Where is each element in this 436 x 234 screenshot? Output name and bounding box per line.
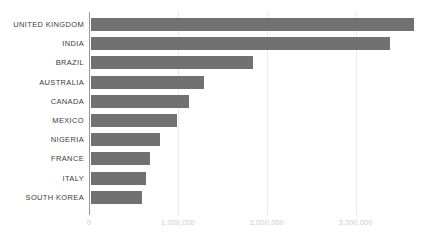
category-label: NIGERIA xyxy=(0,133,84,146)
category-label: SOUTH KOREA xyxy=(0,191,84,204)
category-label: INDIA xyxy=(0,37,84,50)
bar xyxy=(91,133,160,146)
bar xyxy=(91,191,142,204)
x-tick-label: 2,000,000 xyxy=(250,217,284,229)
bar xyxy=(91,56,253,69)
category-label: ITALY xyxy=(0,172,84,185)
bar xyxy=(91,172,146,185)
bar-series xyxy=(89,12,436,215)
bar xyxy=(91,76,204,89)
bar xyxy=(91,95,189,108)
bar-chart: UNITED KINGDOMINDIABRAZILAUSTRALIACANADA… xyxy=(0,0,436,234)
category-label: BRAZIL xyxy=(0,56,84,69)
plot-area xyxy=(89,12,436,215)
bar xyxy=(91,37,390,50)
category-label: AUSTRALIA xyxy=(0,76,84,89)
x-tick-label: 0 xyxy=(87,217,91,229)
bar xyxy=(91,152,150,165)
bar xyxy=(91,18,414,31)
category-label: FRANCE xyxy=(0,152,84,165)
category-label: MEXICO xyxy=(0,114,84,127)
x-tick-label: 1,000,000 xyxy=(161,217,195,229)
x-axis: 01,000,0002,000,0003,000,000 xyxy=(89,217,436,231)
category-label: CANADA xyxy=(0,95,84,108)
chart-title xyxy=(8,0,198,6)
category-axis: UNITED KINGDOMINDIABRAZILAUSTRALIACANADA… xyxy=(0,12,84,215)
category-label: UNITED KINGDOM xyxy=(0,18,84,31)
x-tick-label: 3,000,000 xyxy=(339,217,373,229)
bar xyxy=(91,114,177,127)
